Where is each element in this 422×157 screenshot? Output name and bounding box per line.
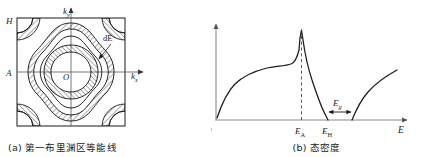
panel-density-of-states: EA EH Eg g(E) E O (b) 态密度 (211, 0, 422, 157)
kx-axis-label: kx (131, 71, 138, 83)
origin-label-a: O (63, 72, 69, 82)
dE-label: dE (103, 33, 112, 43)
band-gap-label: Eg (332, 98, 343, 110)
dos-curve-band-2 (352, 70, 397, 120)
figure-root: H A ky kx O dE (a) 第一布里渊区等能线 (0, 0, 422, 157)
caption-panel-b: (b) 态密度 (211, 140, 422, 154)
caption-panel-a: (a) 第一布里渊区等能线 (0, 140, 211, 154)
corner-band-bottom-right (102, 104, 125, 126)
ky-axis-label: ky (63, 6, 70, 18)
density-of-states-chart: EA EH Eg g(E) E O (211, 0, 422, 157)
label-A: A (5, 68, 12, 78)
energy-axis-label: E (397, 125, 404, 135)
panel-brillouin-zone: H A ky kx O dE (a) 第一布里渊区等能线 (0, 0, 211, 157)
corner-band-top-left (17, 18, 40, 40)
tick-label-E-H: EH (321, 126, 333, 138)
origin-label-b: O (211, 125, 212, 135)
label-H: H (5, 16, 13, 26)
corner-band-bottom-left (17, 104, 40, 126)
brillouin-zone-diagram: H A ky kx O dE (0, 0, 211, 157)
dos-curve-band-1 (217, 30, 328, 120)
tick-label-E-A: EA (294, 126, 306, 138)
